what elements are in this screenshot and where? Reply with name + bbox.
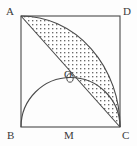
vertex-label-c: C <box>122 130 129 141</box>
vertex-label-a: A <box>6 6 14 17</box>
vertex-label-b: B <box>7 130 14 141</box>
geometry-figure: A D B C M O <box>0 0 137 146</box>
vertex-label-o: O <box>64 69 72 80</box>
vertex-label-m: M <box>64 130 74 141</box>
vertex-label-d: D <box>123 6 131 17</box>
